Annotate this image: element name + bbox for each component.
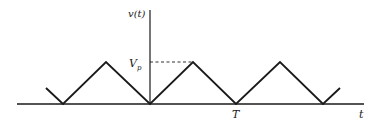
peak-label: Vp bbox=[129, 57, 142, 72]
x-axis-label: t bbox=[359, 108, 364, 121]
triangle-wave-diagram: v(t) Vp T t bbox=[0, 0, 380, 122]
triangle-waveform bbox=[46, 62, 340, 104]
period-label: T bbox=[232, 108, 241, 121]
y-axis-label: v(t) bbox=[128, 8, 146, 19]
